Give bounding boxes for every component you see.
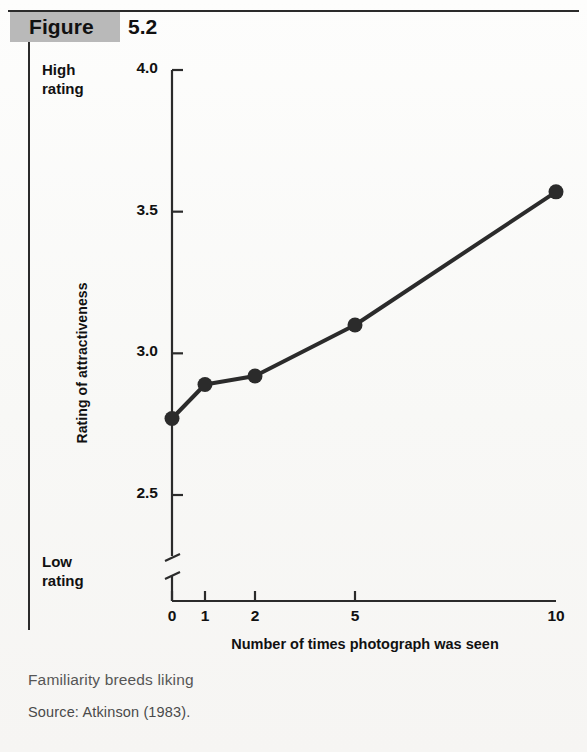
y-tick-label: 3.5 (114, 201, 158, 219)
figure-page: Figure 5.2 High rating Low rating Rating… (0, 0, 587, 752)
axis-layer (165, 70, 556, 601)
data-series-layer (172, 192, 556, 419)
figure-source: Source: Atkinson (1983). (28, 704, 190, 720)
line-chart-plot (0, 0, 587, 752)
x-tick-label: 0 (157, 607, 187, 625)
data-marker-layer (165, 184, 564, 426)
x-tick-label: 10 (541, 607, 571, 625)
x-tick-label: 5 (340, 607, 370, 625)
y-tick-label: 4.0 (114, 59, 158, 77)
tick-mark-layer (172, 70, 355, 601)
y-tick-label: 3.0 (114, 342, 158, 360)
x-tick-label: 1 (190, 607, 220, 625)
x-tick-label: 2 (240, 607, 270, 625)
figure-caption: Familiarity breeds liking (28, 671, 194, 689)
y-tick-label: 2.5 (114, 484, 158, 502)
